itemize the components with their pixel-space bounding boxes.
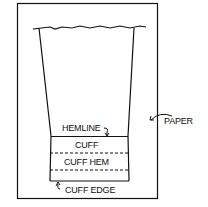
paper-label: PAPER: [164, 117, 193, 126]
garment-top-edge: [33, 26, 146, 29]
garment-left-seam: [39, 28, 51, 136]
diagram-canvas: [0, 0, 208, 207]
cuff-edge-arrow-icon: [56, 182, 60, 189]
hemline-label: HEMLINE: [62, 124, 101, 133]
paper-sheet: [18, 4, 158, 199]
cuff-edge-label: CUFF EDGE: [65, 186, 115, 195]
cuff-right-edge: [128, 136, 129, 181]
garment-right-seam: [128, 28, 134, 136]
cuff-label: CUFF: [75, 141, 98, 150]
hemline-arrow-icon: [104, 128, 109, 136]
cuff-left-edge: [50, 136, 51, 181]
cuff-hem-label: CUFF HEM: [64, 158, 109, 167]
